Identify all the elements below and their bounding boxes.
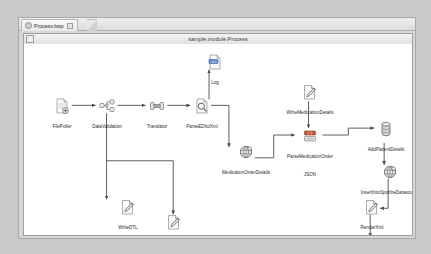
node-renderXml[interactable]: RenderXml [346,199,398,233]
process-icon [25,22,32,29]
node-dataValidation[interactable]: DataValidation [81,98,133,132]
node-label: ParseEDItoXml [186,124,217,129]
web-service-icon [382,164,398,180]
node-label: WriteDTL [118,225,137,230]
close-icon[interactable] [67,23,73,29]
translator-icon [149,98,165,114]
node-label: DataValidation [92,124,122,129]
node-label: Translator [147,124,168,129]
node-addPatientDetails[interactable]: AddPatientDetails [359,121,412,155]
node-writeDTL[interactable]: WriteDTL [102,199,154,233]
process-editor-window: Process.bwp sample.module.Process [18,17,416,239]
log-icon: LOG [207,54,223,70]
render-xml-icon [364,199,380,215]
node-label: InsertIntoSpotfireDatasource [361,190,412,195]
tab-process-bwp[interactable]: Process.bwp [21,19,78,31]
node-label: AddPatientDetails [368,147,405,152]
parse-edi-icon [194,98,210,114]
node-parseEDItoXml[interactable]: ParseEDItoXml [176,98,228,132]
process-canvas-panel: sample.module.Process [23,33,413,236]
node-label: WriteMedicationDetails [287,110,334,115]
node-parseMedicationOrderJSON[interactable]: { } ParseMedicationOrderJSON [287,128,333,180]
node-label: MedicationOrderDetails [222,170,270,175]
svg-text:{ }: { } [308,131,313,135]
database-icon [378,121,394,137]
tab-overflow-corner [87,19,97,31]
editor-tab-strip: Process.bwp [19,18,415,31]
node-insertIntoSpotfireDatasource[interactable]: InsertIntoSpotfireDatasource [350,164,412,198]
node-writeEDI[interactable]: WriteEDI [148,214,200,235]
panel-title: sample.module.Process [24,36,412,42]
write-file-icon [166,214,182,230]
tab-label: Process.bwp [34,23,64,29]
file-poller-icon [54,98,70,114]
node-label: RenderXml [361,225,384,230]
write-file-icon [120,199,136,215]
web-service-icon [238,144,254,160]
node-label: FilePoller [52,124,71,129]
desktop-background: Process.bwp sample.module.Process [0,0,431,254]
node-log[interactable]: LOG Log [189,54,241,88]
node-label: ParseMedicationOrderJSON [287,154,333,177]
write-file-icon [302,84,318,100]
svg-text:LOG: LOG [210,60,217,64]
node-writeMedicationDetails[interactable]: WriteMedicationDetails [279,84,341,118]
node-medicationOrderDetails[interactable]: MedicationOrderDetails [213,144,279,178]
process-diagram-canvas[interactable]: FilePoller DataValidation [24,44,412,235]
node-label: Log [211,80,219,85]
parse-json-icon: { } [302,128,318,144]
data-validation-icon [99,98,115,114]
